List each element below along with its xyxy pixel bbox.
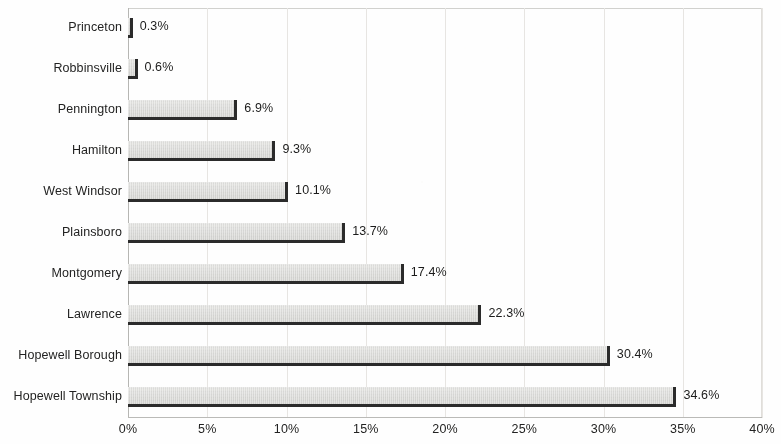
bar <box>128 346 610 366</box>
bar <box>128 182 288 202</box>
bar-row: 6.9% <box>128 90 762 131</box>
bar-value-label: 0.6% <box>145 60 174 74</box>
bar-row: 13.7% <box>128 213 762 254</box>
category-label: Lawrence <box>0 307 122 321</box>
bar-row: 30.4% <box>128 336 762 377</box>
category-label: Hamilton <box>0 143 122 157</box>
bar <box>128 305 481 325</box>
x-tick-label: 40% <box>749 422 774 436</box>
bar-value-label: 0.3% <box>140 19 169 33</box>
category-label: West Windsor <box>0 184 122 198</box>
bar-fill-texture <box>128 141 272 158</box>
category-label: Hopewell Township <box>0 389 122 403</box>
bar-value-label: 17.4% <box>411 265 447 279</box>
bar-value-label: 9.3% <box>282 142 311 156</box>
bar-fill-texture <box>128 18 130 35</box>
category-label: Plainsboro <box>0 225 122 239</box>
x-tick-label: 20% <box>432 422 457 436</box>
x-tick-label: 5% <box>198 422 216 436</box>
bar-fill-texture <box>128 223 342 240</box>
bar-row: 0.3% <box>128 8 762 49</box>
x-tick-label: 25% <box>512 422 537 436</box>
bar-row: 17.4% <box>128 254 762 295</box>
bar-fill-texture <box>128 59 135 76</box>
x-axis-line <box>128 417 762 418</box>
bar-fill-texture <box>128 346 607 363</box>
bar-row: 22.3% <box>128 295 762 336</box>
bar-value-label: 30.4% <box>617 347 653 361</box>
bar <box>128 223 345 243</box>
y-axis-category-labels: PrincetonRobbinsvillePenningtonHamiltonW… <box>0 8 122 418</box>
category-label: Princeton <box>0 20 122 34</box>
bar-fill-texture <box>128 100 234 117</box>
plot-area: 0.3%0.6%6.9%9.3%10.1%13.7%17.4%22.3%30.4… <box>128 8 762 418</box>
x-tick-label: 15% <box>353 422 378 436</box>
gridline-40% <box>762 8 763 418</box>
category-label: Robbinsville <box>0 61 122 75</box>
x-tick-label: 30% <box>591 422 616 436</box>
bar-chart: PrincetonRobbinsvillePenningtonHamiltonW… <box>0 0 781 444</box>
bar-fill-texture <box>128 264 401 281</box>
x-axis-tick-labels: 0%5%10%15%20%25%30%35%40% <box>0 422 781 444</box>
x-tick-label: 0% <box>119 422 137 436</box>
bar-row: 0.6% <box>128 49 762 90</box>
bar-value-label: 22.3% <box>488 306 524 320</box>
bar-fill-texture <box>128 182 285 199</box>
bar <box>128 141 275 161</box>
bar-row: 34.6% <box>128 377 762 418</box>
bar <box>128 100 237 120</box>
x-tick-label: 35% <box>670 422 695 436</box>
bar-row: 9.3% <box>128 131 762 172</box>
bar-value-label: 10.1% <box>295 183 331 197</box>
bar-value-label: 13.7% <box>352 224 388 238</box>
bar <box>128 264 404 284</box>
bar-fill-texture <box>128 305 478 322</box>
category-label: Montgomery <box>0 266 122 280</box>
bar-value-label: 34.6% <box>683 388 719 402</box>
bar <box>128 387 676 407</box>
category-label: Hopewell Borough <box>0 348 122 362</box>
category-label: Pennington <box>0 102 122 116</box>
bar <box>128 59 138 79</box>
x-tick-label: 10% <box>274 422 299 436</box>
bar-fill-texture <box>128 387 673 404</box>
bar <box>128 18 133 38</box>
bar-value-label: 6.9% <box>244 101 273 115</box>
bar-row: 10.1% <box>128 172 762 213</box>
